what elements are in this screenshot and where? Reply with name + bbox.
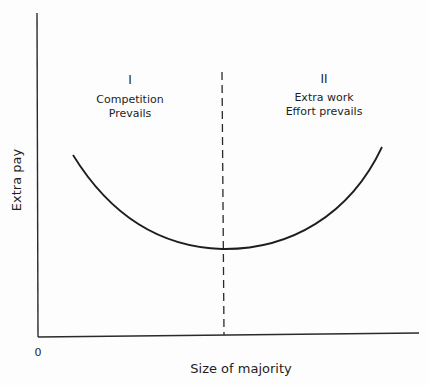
region1-line2: Prevails <box>109 107 152 120</box>
divider-dashed-line <box>222 72 224 335</box>
region2-line2: Effort prevails <box>286 105 363 118</box>
region1-numeral: I <box>128 73 132 87</box>
region2-numeral: II <box>320 72 327 86</box>
y-axis <box>37 13 38 337</box>
origin-label: 0 <box>35 346 42 359</box>
region2-line1: Extra work <box>294 91 354 104</box>
region1-line1: Competition <box>96 93 163 106</box>
x-axis <box>38 333 419 337</box>
x-axis-title: Size of majority <box>190 361 292 376</box>
chart: I Competition Prevails II Extra work Eff… <box>0 0 428 385</box>
extra-pay-curve <box>73 147 382 249</box>
y-axis-title: Extra pay <box>9 149 24 212</box>
chart-canvas: I Competition Prevails II Extra work Eff… <box>0 0 428 385</box>
